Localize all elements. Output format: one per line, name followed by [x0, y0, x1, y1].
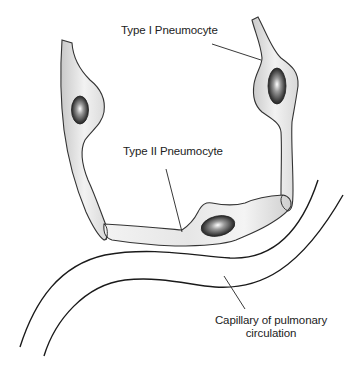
capillary-label: Capillary of pulmonary circulation: [204, 314, 338, 340]
capillary-label-line2: circulation: [204, 327, 338, 340]
type1-nucleus-right: [268, 68, 286, 104]
type2-pneumocyte-label: Type II Pneumocyte: [123, 145, 223, 158]
alveolus-diagram: [0, 0, 359, 366]
type1-pneumocyte-label: Type I Pneumocyte: [121, 24, 218, 37]
type2-leader-line: [166, 169, 182, 232]
leader-lines: [166, 44, 261, 309]
right-alveolar-wall: [252, 17, 298, 211]
type1-nucleus-left: [72, 96, 89, 124]
capillary-label-line1: Capillary of pulmonary: [204, 314, 338, 327]
bottom-alveolar-wall: [104, 195, 291, 246]
type1-leader-line: [212, 44, 261, 60]
left-alveolar-wall: [61, 40, 108, 240]
capillary-leader-line: [224, 276, 245, 309]
